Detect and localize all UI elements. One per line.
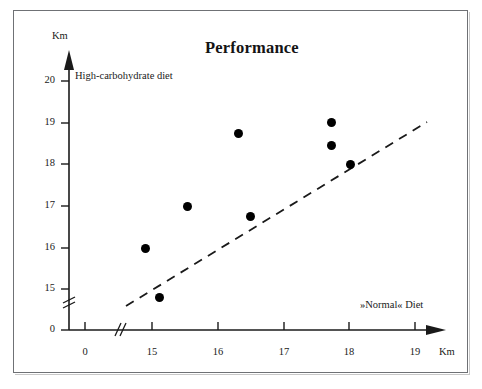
data-point: [234, 129, 243, 138]
x-axis-arrow: [426, 325, 446, 335]
data-point: [327, 118, 336, 127]
data-point: [327, 141, 336, 150]
y-tick-label-17: 17: [33, 199, 55, 210]
y-tick-label-20: 20: [33, 74, 55, 85]
x-axis-unit-label: Km: [439, 346, 455, 357]
x-axis-annotation: »Normal« Diet: [360, 299, 423, 310]
x-tick-label-16: 16: [206, 346, 230, 357]
data-point: [141, 244, 150, 253]
x-tick-label-17: 17: [272, 346, 296, 357]
y-tick-label-19: 19: [33, 116, 55, 127]
data-point: [183, 202, 192, 211]
data-point: [346, 160, 355, 169]
x-tick-label-19: 19: [403, 346, 427, 357]
x-tick-label-18: 18: [337, 346, 361, 357]
y-axis-arrow: [64, 50, 74, 70]
y-tick-label-15: 15: [33, 282, 55, 293]
y-tick-label-16: 16: [33, 241, 55, 252]
y-axis-annotation: High-carbohydrate diet: [75, 70, 173, 81]
y-tick-label-0: 0: [33, 323, 55, 334]
data-point: [246, 212, 255, 221]
x-tick-label-0: 0: [73, 346, 97, 357]
data-point: [155, 293, 164, 302]
x-tick-label-15: 15: [140, 346, 164, 357]
trend-line: [126, 122, 427, 306]
chart-title: Performance: [205, 38, 299, 58]
y-tick-label-18: 18: [33, 157, 55, 168]
chart-canvas: [0, 0, 482, 389]
figure-container: Performance High-carbohydrate diet »Norm…: [0, 0, 482, 389]
y-axis-unit-label: Km: [52, 30, 68, 41]
